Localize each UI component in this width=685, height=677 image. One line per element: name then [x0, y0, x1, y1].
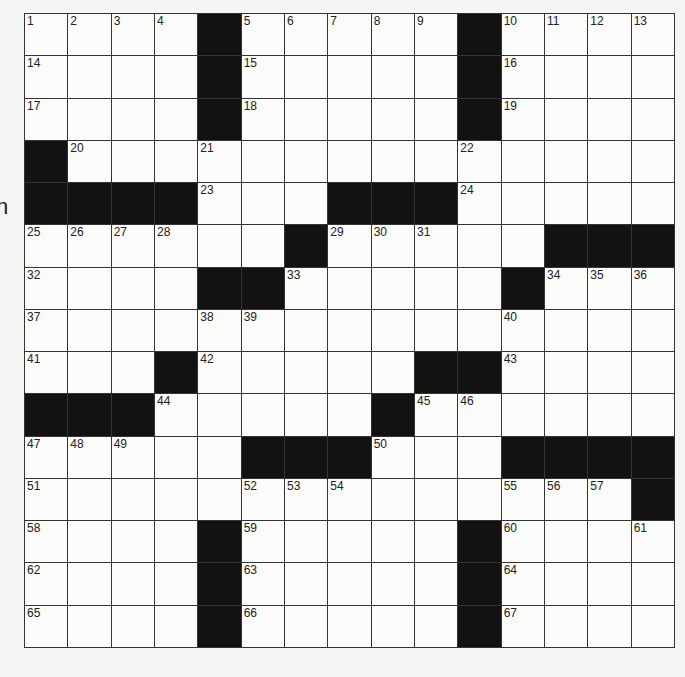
crossword-cell[interactable]	[415, 56, 457, 97]
crossword-cell[interactable]: 64	[502, 563, 544, 604]
crossword-cell[interactable]: 28	[155, 225, 197, 266]
crossword-cell[interactable]	[372, 56, 414, 97]
crossword-cell[interactable]	[588, 394, 630, 435]
crossword-cell[interactable]	[328, 352, 370, 393]
crossword-cell[interactable]	[545, 352, 587, 393]
crossword-cell[interactable]	[632, 141, 674, 182]
crossword-cell[interactable]: 3	[112, 14, 154, 55]
crossword-cell[interactable]: 26	[68, 225, 110, 266]
crossword-cell[interactable]	[198, 394, 240, 435]
crossword-cell[interactable]: 11	[545, 14, 587, 55]
crossword-cell[interactable]: 2	[68, 14, 110, 55]
crossword-cell[interactable]	[242, 225, 284, 266]
crossword-cell[interactable]	[588, 99, 630, 140]
crossword-cell[interactable]	[112, 99, 154, 140]
crossword-cell[interactable]: 4	[155, 14, 197, 55]
crossword-cell[interactable]	[632, 394, 674, 435]
crossword-cell[interactable]	[372, 99, 414, 140]
crossword-cell[interactable]	[458, 268, 500, 309]
crossword-cell[interactable]	[328, 563, 370, 604]
crossword-cell[interactable]	[285, 310, 327, 351]
crossword-cell[interactable]	[328, 521, 370, 562]
crossword-cell[interactable]: 59	[242, 521, 284, 562]
crossword-cell[interactable]	[242, 183, 284, 224]
crossword-cell[interactable]: 66	[242, 606, 284, 647]
crossword-cell[interactable]	[328, 99, 370, 140]
crossword-cell[interactable]	[112, 479, 154, 520]
crossword-cell[interactable]: 33	[285, 268, 327, 309]
crossword-cell[interactable]: 13	[632, 14, 674, 55]
crossword-cell[interactable]	[328, 141, 370, 182]
crossword-cell[interactable]	[415, 563, 457, 604]
crossword-cell[interactable]	[198, 437, 240, 478]
crossword-cell[interactable]	[545, 394, 587, 435]
crossword-cell[interactable]	[68, 352, 110, 393]
crossword-cell[interactable]	[545, 56, 587, 97]
crossword-cell[interactable]: 50	[372, 437, 414, 478]
crossword-cell[interactable]: 65	[25, 606, 67, 647]
crossword-cell[interactable]	[285, 606, 327, 647]
crossword-cell[interactable]: 61	[632, 521, 674, 562]
crossword-cell[interactable]	[112, 141, 154, 182]
crossword-cell[interactable]: 18	[242, 99, 284, 140]
crossword-cell[interactable]	[415, 141, 457, 182]
crossword-cell[interactable]: 1	[25, 14, 67, 55]
crossword-cell[interactable]	[328, 394, 370, 435]
crossword-cell[interactable]: 10	[502, 14, 544, 55]
crossword-cell[interactable]: 42	[198, 352, 240, 393]
crossword-cell[interactable]	[112, 521, 154, 562]
crossword-cell[interactable]: 44	[155, 394, 197, 435]
crossword-cell[interactable]	[372, 606, 414, 647]
crossword-cell[interactable]	[285, 563, 327, 604]
crossword-cell[interactable]: 7	[328, 14, 370, 55]
crossword-cell[interactable]	[68, 563, 110, 604]
crossword-cell[interactable]: 67	[502, 606, 544, 647]
crossword-cell[interactable]: 55	[502, 479, 544, 520]
crossword-cell[interactable]	[632, 310, 674, 351]
crossword-cell[interactable]	[285, 141, 327, 182]
crossword-cell[interactable]: 25	[25, 225, 67, 266]
crossword-cell[interactable]	[198, 479, 240, 520]
crossword-cell[interactable]	[112, 268, 154, 309]
crossword-cell[interactable]: 21	[198, 141, 240, 182]
crossword-cell[interactable]	[588, 606, 630, 647]
crossword-cell[interactable]	[545, 521, 587, 562]
crossword-cell[interactable]	[198, 225, 240, 266]
crossword-cell[interactable]	[632, 352, 674, 393]
crossword-cell[interactable]: 19	[502, 99, 544, 140]
crossword-cell[interactable]	[155, 141, 197, 182]
crossword-cell[interactable]	[372, 310, 414, 351]
crossword-cell[interactable]: 57	[588, 479, 630, 520]
crossword-cell[interactable]	[545, 141, 587, 182]
crossword-cell[interactable]	[588, 352, 630, 393]
crossword-cell[interactable]: 5	[242, 14, 284, 55]
crossword-cell[interactable]: 27	[112, 225, 154, 266]
crossword-cell[interactable]: 47	[25, 437, 67, 478]
crossword-cell[interactable]: 15	[242, 56, 284, 97]
crossword-cell[interactable]	[545, 99, 587, 140]
crossword-cell[interactable]	[545, 606, 587, 647]
crossword-cell[interactable]: 62	[25, 563, 67, 604]
crossword-cell[interactable]	[415, 437, 457, 478]
crossword-cell[interactable]: 60	[502, 521, 544, 562]
crossword-cell[interactable]: 52	[242, 479, 284, 520]
crossword-cell[interactable]	[502, 183, 544, 224]
crossword-cell[interactable]	[415, 521, 457, 562]
crossword-cell[interactable]	[588, 56, 630, 97]
crossword-cell[interactable]	[415, 479, 457, 520]
crossword-cell[interactable]	[155, 268, 197, 309]
crossword-cell[interactable]	[372, 563, 414, 604]
crossword-cell[interactable]: 17	[25, 99, 67, 140]
crossword-cell[interactable]	[328, 268, 370, 309]
crossword-cell[interactable]	[415, 99, 457, 140]
crossword-cell[interactable]	[458, 437, 500, 478]
crossword-cell[interactable]	[285, 394, 327, 435]
crossword-cell[interactable]	[68, 268, 110, 309]
crossword-cell[interactable]: 56	[545, 479, 587, 520]
crossword-cell[interactable]: 53	[285, 479, 327, 520]
crossword-cell[interactable]	[328, 606, 370, 647]
crossword-cell[interactable]	[68, 521, 110, 562]
crossword-cell[interactable]	[112, 563, 154, 604]
crossword-cell[interactable]	[632, 99, 674, 140]
crossword-cell[interactable]: 41	[25, 352, 67, 393]
